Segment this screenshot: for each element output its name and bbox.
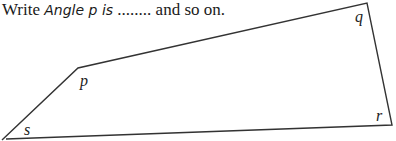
vertex-label-r: r [376,107,383,124]
quadrilateral-figure: p q r s [0,0,396,141]
vertex-label-s: s [24,121,30,138]
quadrilateral-outline [2,3,392,140]
vertex-label-q: q [355,8,363,26]
vertex-label-p: p [79,72,88,90]
